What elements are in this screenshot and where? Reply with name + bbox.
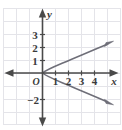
- figure-background: [0, 0, 122, 130]
- x-tick-label-3: 3: [79, 75, 85, 87]
- y-tick-label-3: 3: [32, 29, 38, 41]
- y-axis-label: y: [45, 8, 52, 20]
- y-tick-label-1: 1: [32, 55, 38, 67]
- graph-svg: y x O 1 2 3 4 3 2 1 −2: [0, 0, 122, 130]
- x-tick-label-2: 2: [66, 75, 72, 87]
- x-axis-label: x: [110, 75, 117, 87]
- origin-label: O: [32, 76, 39, 87]
- x-tick-label-4: 4: [92, 75, 98, 87]
- y-tick-label-2: 2: [32, 42, 38, 54]
- x-tick-label-1: 1: [53, 75, 59, 87]
- y-tick-label-neg2: −2: [27, 94, 39, 106]
- graph-figure: y x O 1 2 3 4 3 2 1 −2: [0, 0, 122, 130]
